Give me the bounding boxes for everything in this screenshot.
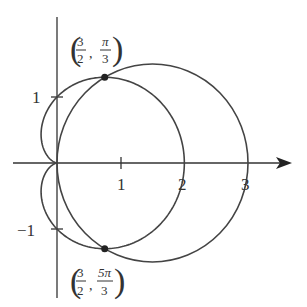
intersection-point-lower	[101, 245, 108, 252]
x-tick-label-1: 1	[117, 175, 126, 194]
intersection-point-upper	[101, 74, 108, 81]
intersection-label-upper: ( 3 2 , π 3 )	[70, 30, 123, 68]
svg-text:): )	[114, 262, 125, 300]
y-tick-label-1: 1	[32, 88, 41, 107]
svg-text:2: 2	[77, 283, 84, 298]
svg-text:3: 3	[77, 34, 84, 49]
svg-text:): )	[112, 30, 123, 68]
x-tick-label-3: 3	[241, 175, 250, 194]
svg-text:3: 3	[77, 265, 84, 280]
y-tick-label-neg1: −1	[17, 221, 35, 240]
svg-text:π: π	[102, 34, 109, 49]
svg-text:3: 3	[101, 283, 108, 298]
polar-graph: 1 2 3 1 −1 ( 3 2 , π 3 ) ( 3 2 , 5π 3 )	[0, 0, 307, 307]
svg-text:2: 2	[77, 51, 84, 66]
svg-text:,: ,	[89, 46, 93, 61]
svg-text:,: ,	[89, 278, 93, 293]
intersection-label-lower: ( 3 2 , 5π 3 )	[70, 262, 125, 300]
svg-text:5π: 5π	[98, 265, 112, 280]
x-tick-label-2: 2	[178, 175, 187, 194]
svg-text:3: 3	[102, 51, 109, 66]
